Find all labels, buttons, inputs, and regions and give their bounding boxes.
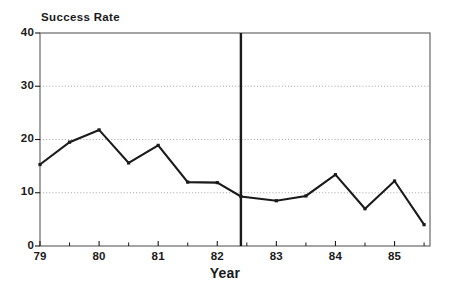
plot-frame [40, 33, 430, 246]
x-tick-label-81: 81 [138, 250, 178, 262]
x-tick-label-82: 82 [197, 250, 237, 262]
chart-figure: Success Rate Year 010203040 798081828384… [0, 0, 450, 293]
data-point-marker [363, 207, 366, 210]
x-tick-label-79: 79 [20, 250, 60, 262]
y-tick-label-20: 20 [0, 132, 34, 144]
y-tick-label-10: 10 [0, 185, 34, 197]
y-tick-label-40: 40 [0, 26, 34, 38]
data-point-marker [68, 141, 71, 144]
data-point-marker [393, 179, 396, 182]
data-point-marker [334, 173, 337, 176]
x-axis-title: Year [0, 265, 450, 281]
data-point-marker [422, 223, 425, 226]
x-tick-label-80: 80 [79, 250, 119, 262]
series-line-0 [40, 130, 424, 225]
data-point-marker [239, 195, 242, 198]
data-point-marker [38, 163, 41, 166]
data-point-marker [216, 181, 219, 184]
data-point-marker [304, 194, 307, 197]
data-point-marker [186, 181, 189, 184]
data-point-marker [127, 161, 130, 164]
y-tick-label-0: 0 [0, 239, 34, 251]
y-axis-title: Success Rate [41, 11, 120, 23]
y-tick-label-30: 30 [0, 79, 34, 91]
data-point-marker [275, 199, 278, 202]
x-tick-label-84: 84 [315, 250, 355, 262]
data-point-marker [97, 128, 100, 131]
data-point-marker [157, 144, 160, 147]
x-tick-label-85: 85 [375, 250, 415, 262]
x-tick-label-83: 83 [256, 250, 296, 262]
